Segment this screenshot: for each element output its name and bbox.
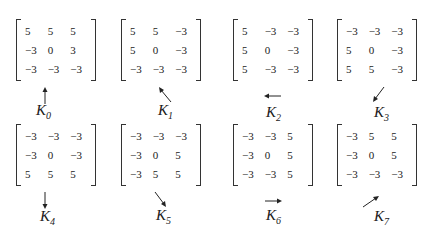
matrix-cell: 5 [343,63,366,75]
arrow-down-left-icon [370,84,390,104]
matrix-cell: −3 [388,168,411,180]
matrix: −3 −3 −3 −3 0 −3 5 5 5 [16,124,96,186]
matrix-grid: −3 −3 −3 5 0 −3 5 5 −3 [343,22,411,78]
kernel-label-k3: K3 [374,104,389,123]
matrix-cell: −3 [22,130,45,142]
matrix-cell: −3 [172,130,195,142]
matrix-cell: 5 [388,149,411,161]
kernel-k6: −3 −3 5 −3 0 5 −3 −3 5 [233,124,315,186]
right-bracket [196,19,201,81]
matrix-cell: −3 [67,149,90,161]
matrix-cell: −3 [172,44,195,56]
matrix-cell: 5 [150,25,173,37]
matrix: 5 −3 −3 5 0 −3 5 −3 −3 [233,19,313,81]
matrix-cell: 0 [150,149,173,161]
matrix-cell: −3 [366,168,389,180]
matrix-grid: −3 −3 −3 −3 0 −3 5 5 5 [22,127,90,183]
matrix-cell: 0 [45,149,68,161]
kernel-k2: 5 −3 −3 5 0 −3 5 −3 −3 [233,19,315,81]
matrix-cell: −3 [45,130,68,142]
kernel-label-k6: K6 [266,207,281,226]
matrix-cell: −3 [343,25,366,37]
kernel-k3: −3 −3 −3 5 0 −3 5 5 −3 [337,19,419,81]
kernel-label-k2: K2 [266,104,281,123]
left-bracket [233,124,238,186]
kernel-k4: −3 −3 −3 −3 0 −3 5 5 5 [16,124,98,186]
left-bracket [233,19,238,81]
matrix-cell: −3 [388,25,411,37]
matrix-cell: −3 [239,130,262,142]
matrix-cell: −3 [172,25,195,37]
right-bracket [308,19,313,81]
matrix-cell: −3 [172,63,195,75]
matrix-grid: 5 −3 −3 5 0 −3 5 −3 −3 [239,22,307,78]
matrix: −3 −3 5 −3 0 5 −3 −3 5 [233,124,313,186]
matrix-cell: −3 [45,63,68,75]
matrix: 5 5 −3 5 0 −3 −3 −3 −3 [121,19,201,81]
matrix-cell: −3 [343,168,366,180]
matrix-cell: −3 [22,63,45,75]
kernel-k0: 5 5 5 −3 0 3 −3 −3 −3 [16,19,98,81]
matrix-cell: 5 [45,168,68,180]
arrow-left-icon [263,86,283,106]
kernel-k1: 5 5 −3 5 0 −3 −3 −3 −3 [121,19,203,81]
matrix: −3 5 5 −3 0 5 −3 −3 −3 [337,124,417,186]
kernel-k5: −3 −3 −3 −3 0 5 −3 5 5 [121,124,203,186]
matrix-cell: −3 [22,44,45,56]
matrix: −3 −3 −3 5 0 −3 5 5 −3 [337,19,417,81]
matrix-cell: −3 [22,149,45,161]
matrix-cell: 5 [284,149,307,161]
matrix-cell: −3 [262,63,285,75]
matrix-cell: 5 [127,44,150,56]
matrix-cell: −3 [239,149,262,161]
right-bracket [91,19,96,81]
matrix-cell: −3 [262,168,285,180]
matrix-cell: 0 [150,44,173,56]
matrix-cell: −3 [150,63,173,75]
matrix-grid: 5 5 −3 5 0 −3 −3 −3 −3 [127,22,195,78]
right-bracket [412,19,417,81]
matrix-cell: 5 [343,44,366,56]
matrix-cell: 5 [366,63,389,75]
matrix-cell: −3 [343,149,366,161]
left-bracket [121,19,126,81]
matrix-cell: −3 [388,63,411,75]
kernel-label-k0: K0 [36,102,51,121]
matrix-cell: 0 [262,149,285,161]
matrix-grid: −3 −3 5 −3 0 5 −3 −3 5 [239,127,307,183]
matrix-cell: 5 [45,25,68,37]
matrix: 5 5 5 −3 0 3 −3 −3 −3 [16,19,96,81]
matrix-cell: 5 [284,168,307,180]
matrix-cell: 5 [172,168,195,180]
left-bracket [16,19,21,81]
matrix-cell: −3 [127,168,150,180]
arrow-down-right-icon [150,189,170,209]
left-bracket [337,124,342,186]
right-bracket [91,124,96,186]
matrix-grid: −3 5 5 −3 0 5 −3 −3 −3 [343,127,411,183]
matrix-cell: 5 [239,44,262,56]
matrix-cell: 5 [366,130,389,142]
left-bracket [121,124,126,186]
matrix-cell: −3 [67,130,90,142]
matrix-cell: −3 [284,63,307,75]
matrix-cell: 0 [366,149,389,161]
matrix-cell: −3 [127,130,150,142]
matrix-cell: −3 [262,130,285,142]
matrix: −3 −3 −3 −3 0 5 −3 5 5 [121,124,201,186]
kernel-label-k7: K7 [374,208,389,227]
matrix-cell: −3 [284,44,307,56]
kernel-label-k4: K4 [40,208,55,227]
matrix-cell: 5 [239,63,262,75]
matrix-cell: −3 [127,63,150,75]
matrix-cell: 5 [22,25,45,37]
right-bracket [196,124,201,186]
kernel-k7: −3 5 5 −3 0 5 −3 −3 −3 [337,124,419,186]
matrix-cell: −3 [67,63,90,75]
matrix-cell: −3 [366,25,389,37]
matrix-cell: 0 [262,44,285,56]
matrix-cell: −3 [284,25,307,37]
matrix-cell: −3 [239,168,262,180]
matrix-cell: 5 [239,25,262,37]
matrix-cell: 5 [127,25,150,37]
